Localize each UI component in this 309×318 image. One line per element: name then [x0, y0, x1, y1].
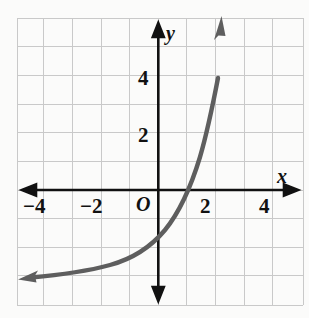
curve-arrow-up-right [214, 16, 226, 40]
origin-label: O [136, 194, 150, 214]
curve-path [31, 78, 218, 278]
x-tick-label-neg2: −2 [80, 196, 102, 217]
curve-arrow-left [18, 271, 38, 283]
exponential-curve [0, 0, 309, 318]
x-tick-label-2: 2 [200, 196, 211, 217]
x-tick-label-neg4: −4 [23, 196, 45, 217]
x-tick-label-4: 4 [259, 196, 270, 217]
y-tick-label-2: 2 [138, 125, 149, 146]
x-axis-label: x [277, 166, 287, 186]
y-axis-label: y [166, 23, 175, 43]
y-tick-label-4: 4 [138, 68, 149, 89]
graph-figure: −4 −2 2 4 4 2 O x y [0, 0, 309, 318]
